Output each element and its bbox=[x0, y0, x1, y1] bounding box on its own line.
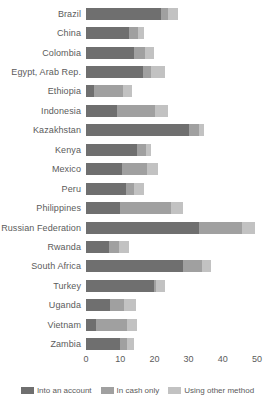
legend-item[interactable]: In cash only bbox=[101, 386, 160, 395]
legend-item[interactable]: Into an account bbox=[21, 386, 92, 395]
legend-label: Into an account bbox=[37, 386, 92, 395]
bar-segment[interactable] bbox=[127, 319, 138, 331]
stacked-bar[interactable] bbox=[86, 280, 165, 292]
bar-segment[interactable] bbox=[189, 124, 199, 136]
stacked-bar[interactable] bbox=[86, 202, 183, 214]
bar-segment[interactable] bbox=[86, 183, 126, 195]
bar-segment[interactable] bbox=[161, 8, 169, 20]
legend-label: In cash only bbox=[117, 386, 160, 395]
stacked-bar[interactable] bbox=[86, 299, 136, 311]
bar-segment[interactable] bbox=[86, 8, 161, 20]
bar-segment[interactable] bbox=[122, 163, 147, 175]
bar-segment[interactable] bbox=[183, 260, 202, 272]
bar-segment[interactable] bbox=[94, 85, 123, 97]
bar-segment[interactable] bbox=[119, 241, 129, 253]
stacked-bar[interactable] bbox=[86, 241, 129, 253]
bar-track bbox=[86, 27, 275, 39]
bar-segment[interactable] bbox=[86, 47, 134, 59]
stacked-bar[interactable] bbox=[86, 8, 178, 20]
bar-row: Philippines bbox=[0, 198, 275, 217]
bar-segment[interactable] bbox=[86, 338, 120, 350]
category-label: Uganda bbox=[0, 300, 86, 310]
x-tick-label: 40 bbox=[218, 354, 228, 365]
bar-segment[interactable] bbox=[110, 299, 124, 311]
bar-track bbox=[86, 202, 275, 214]
stacked-bar[interactable] bbox=[86, 47, 154, 59]
category-label: Rwanda bbox=[0, 242, 86, 252]
bar-segment[interactable] bbox=[242, 222, 255, 234]
bar-segment[interactable] bbox=[145, 47, 154, 59]
bar-segment[interactable] bbox=[199, 124, 204, 136]
bar-track bbox=[86, 47, 275, 59]
bar-segment[interactable] bbox=[120, 338, 127, 350]
stacked-bar[interactable] bbox=[86, 163, 158, 175]
stacked-bar[interactable] bbox=[86, 183, 144, 195]
bar-segment[interactable] bbox=[202, 260, 211, 272]
stacked-bar[interactable] bbox=[86, 124, 204, 136]
bar-segment[interactable] bbox=[86, 222, 199, 234]
legend-label: Using other method bbox=[184, 386, 254, 395]
stacked-bar[interactable] bbox=[86, 144, 151, 156]
stacked-bar[interactable] bbox=[86, 319, 137, 331]
bar-segment[interactable] bbox=[86, 105, 117, 117]
bar-segment[interactable] bbox=[127, 338, 133, 350]
bar-segment[interactable] bbox=[117, 105, 155, 117]
stacked-bar[interactable] bbox=[86, 105, 168, 117]
x-tick-label: 50 bbox=[252, 354, 262, 365]
bar-segment[interactable] bbox=[86, 280, 154, 292]
bar-track bbox=[86, 8, 275, 20]
bar-segment[interactable] bbox=[96, 319, 127, 331]
bar-segment[interactable] bbox=[120, 202, 171, 214]
bar-segment[interactable] bbox=[86, 66, 143, 78]
stacked-bar[interactable] bbox=[86, 338, 134, 350]
bar-segment[interactable] bbox=[146, 144, 151, 156]
bar-segment[interactable] bbox=[143, 66, 151, 78]
bar-segment[interactable] bbox=[109, 241, 119, 253]
bar-segment[interactable] bbox=[86, 27, 129, 39]
bar-track bbox=[86, 66, 275, 78]
bar-track bbox=[86, 260, 275, 272]
bar-segment[interactable] bbox=[86, 85, 94, 97]
bar-track bbox=[86, 105, 275, 117]
bar-track bbox=[86, 144, 275, 156]
bar-segment[interactable] bbox=[126, 183, 133, 195]
bar-segment[interactable] bbox=[134, 47, 145, 59]
bar-segment[interactable] bbox=[86, 124, 189, 136]
stacked-bar[interactable] bbox=[86, 260, 211, 272]
bar-segment[interactable] bbox=[129, 27, 137, 39]
bar-segment[interactable] bbox=[138, 27, 144, 39]
bar-row: Colombia bbox=[0, 43, 275, 62]
bar-segment[interactable] bbox=[171, 202, 183, 214]
category-label: Mexico bbox=[0, 164, 86, 174]
bar-segment[interactable] bbox=[86, 202, 120, 214]
stacked-bar[interactable] bbox=[86, 66, 165, 78]
bar-segment[interactable] bbox=[137, 144, 145, 156]
bar-segment[interactable] bbox=[155, 105, 168, 117]
stacked-bar[interactable] bbox=[86, 27, 144, 39]
bar-row: Egypt, Arab Rep. bbox=[0, 62, 275, 81]
bar-segment[interactable] bbox=[86, 299, 110, 311]
bar-segment[interactable] bbox=[199, 222, 242, 234]
stacked-bar[interactable] bbox=[86, 85, 132, 97]
bar-segment[interactable] bbox=[156, 280, 164, 292]
stacked-bar[interactable] bbox=[86, 222, 255, 234]
bar-segment[interactable] bbox=[147, 163, 158, 175]
bar-track bbox=[86, 85, 275, 97]
bar-segment[interactable] bbox=[151, 66, 164, 78]
bar-segment[interactable] bbox=[86, 319, 96, 331]
bar-segment[interactable] bbox=[86, 144, 137, 156]
legend-item[interactable]: Using other method bbox=[168, 386, 254, 395]
stacked-bar-chart: BrazilChinaColombiaEgypt, Arab Rep.Ethio… bbox=[0, 0, 275, 406]
bar-row: Indonesia bbox=[0, 101, 275, 120]
bar-segment[interactable] bbox=[86, 163, 122, 175]
bar-segment[interactable] bbox=[134, 183, 145, 195]
bar-segment[interactable] bbox=[168, 8, 178, 20]
category-label: Russian Federation bbox=[0, 223, 86, 233]
bar-segment[interactable] bbox=[86, 241, 109, 253]
bar-row: Brazil bbox=[0, 4, 275, 23]
bar-segment[interactable] bbox=[124, 299, 136, 311]
bar-segment[interactable] bbox=[86, 260, 183, 272]
bar-row: China bbox=[0, 23, 275, 42]
bar-segment[interactable] bbox=[123, 85, 132, 97]
category-label: South Africa bbox=[0, 261, 86, 271]
